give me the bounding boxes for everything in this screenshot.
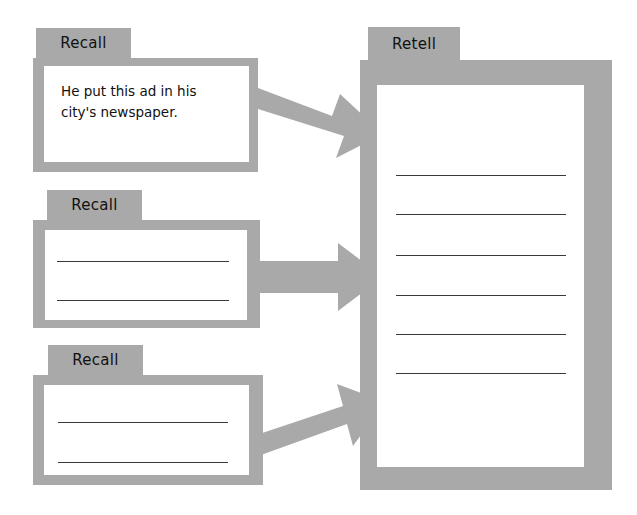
retell-panel-tab-label: Retell [392, 35, 436, 53]
recall-card-1-tab-label: Recall [60, 34, 107, 52]
retell-writing-line-4[interactable] [396, 295, 566, 296]
recall-card-2-writing-line-2[interactable] [57, 300, 229, 301]
recall-card-1-text: He put this ad in his city's newspaper. [61, 81, 241, 123]
recall-card-3-writing-line-1[interactable] [58, 422, 228, 423]
retell-writing-line-2[interactable] [396, 214, 566, 215]
diagram-canvas: Recall He put this ad in his city's news… [0, 0, 637, 515]
retell-writing-line-3[interactable] [396, 255, 566, 256]
recall-card-2-tab[interactable]: Recall [47, 190, 142, 221]
retell-panel-sheet[interactable] [377, 85, 584, 467]
retell-writing-line-6[interactable] [396, 373, 566, 374]
retell-writing-line-1[interactable] [396, 175, 566, 176]
recall-card-2-tab-label: Recall [71, 196, 118, 214]
recall-card-2-writing-line-1[interactable] [57, 261, 229, 262]
retell-panel-tab[interactable]: Retell [368, 27, 460, 62]
recall-card-2-sheet[interactable] [45, 230, 247, 320]
recall-card-3-tab-label: Recall [72, 351, 119, 369]
recall-card-3-writing-line-2[interactable] [58, 462, 228, 463]
recall-card-1-tab[interactable]: Recall [36, 28, 131, 59]
recall-card-3-tab[interactable]: Recall [48, 345, 143, 376]
retell-writing-line-5[interactable] [396, 334, 566, 335]
